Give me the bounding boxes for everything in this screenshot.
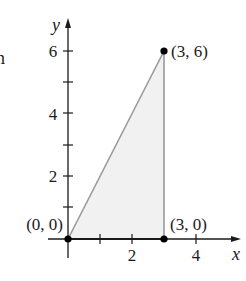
x-tick-label-2: 2 <box>128 246 137 265</box>
point-3-0 <box>160 235 167 242</box>
point-label-3-0: (3, 0) <box>170 215 207 234</box>
point-origin <box>64 235 71 242</box>
cropped-text-fragment: n <box>0 48 5 68</box>
triangle-region-diagram: 6 4 2 2 4 y x (0, 0) (3, 6) (3, 0) n <box>0 0 246 281</box>
point-label-origin: (0, 0) <box>26 215 63 234</box>
point-label-3-6: (3, 6) <box>171 42 208 61</box>
y-axis-arrow-icon <box>65 18 71 28</box>
x-axis-arrow-icon <box>231 236 241 242</box>
x-tick-label-4: 4 <box>192 246 201 265</box>
y-tick-label-2: 2 <box>49 167 58 186</box>
point-3-6 <box>160 47 167 54</box>
x-axis-label: x <box>231 244 240 264</box>
y-tick-label-6: 6 <box>49 42 58 61</box>
y-tick-label-4: 4 <box>49 105 58 124</box>
y-axis-label: y <box>50 15 60 35</box>
